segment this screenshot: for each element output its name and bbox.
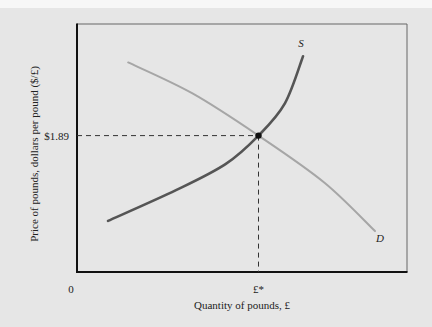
equilibrium-guides: [77, 136, 259, 272]
y-axis-title: Price of pounds, dollars per pound ($/£): [28, 66, 41, 242]
y-tick-label-price: $1.89: [44, 130, 69, 142]
supply-demand-diagram: $1.89 0 £* Quantity of pounds, £ Price o…: [0, 0, 432, 327]
supply-curve: [108, 56, 303, 221]
supply-curve-label: S: [298, 37, 304, 49]
plot-frame: [76, 24, 408, 274]
x-tick-label-origin: 0: [68, 283, 74, 295]
equilibrium-point: [255, 132, 261, 138]
x-tick-label-equilibrium-quantity: £*: [253, 283, 264, 295]
demand-curve: [128, 62, 375, 231]
demand-curve-label: D: [375, 232, 384, 244]
curves: [108, 56, 375, 231]
x-axis-title: Quantity of pounds, £: [194, 299, 290, 311]
